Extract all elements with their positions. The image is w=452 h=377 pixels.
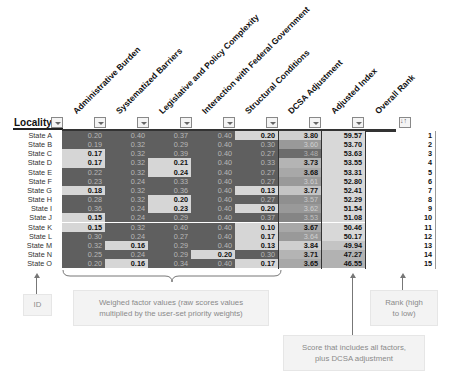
fed-cell: 0.40 (191, 259, 235, 268)
dcsa-cell: 3.64 (278, 232, 321, 241)
admin-cell: 0.25 (62, 250, 105, 259)
locality-cell: State F (10, 177, 52, 186)
index-cell: 51.08 (321, 213, 365, 222)
dcsa-cell: 3.84 (278, 241, 321, 250)
dcsa-cell: 3.77 (278, 186, 321, 195)
table-row: State C0.170.320.390.400.273.4853.633 (0, 149, 452, 158)
sys-cell: 0.24 (105, 213, 148, 222)
fed-cell: 0.40 (191, 232, 235, 241)
fed-cell: 0.40 (191, 186, 235, 195)
arrow-up-icon (34, 273, 40, 278)
filter-locality-button[interactable] (51, 117, 63, 128)
rank-cell: 11 (400, 223, 432, 232)
admin-cell: 0.20 (62, 259, 105, 268)
index-cell: 59.57 (321, 131, 365, 140)
admin-cell: 0.22 (62, 168, 105, 177)
table-row: State H0.280.320.200.400.273.5752.298 (0, 195, 452, 204)
leg-cell: 0.20 (148, 195, 191, 204)
admin-cell: 0.32 (62, 241, 105, 250)
sys-cell: 0.32 (105, 195, 148, 204)
leg-cell: 0.36 (148, 186, 191, 195)
table-row: State I0.360.240.230.400.203.6251.549 (0, 204, 452, 213)
locality-cell: State I (10, 204, 52, 213)
arrow-up-icon (350, 273, 356, 278)
leg-cell: 0.27 (148, 232, 191, 241)
admin-cell: 0.30 (62, 232, 105, 241)
index-cell: 50.46 (321, 223, 365, 232)
rank-cell: 12 (400, 232, 432, 241)
locality-cell: State K (10, 223, 52, 232)
locality-cell: State N (10, 250, 52, 259)
fed-cell: 0.40 (191, 177, 235, 186)
sys-cell: 0.24 (105, 177, 148, 186)
sys-cell: 0.16 (105, 259, 148, 268)
struct-cell: 0.33 (235, 158, 278, 167)
table-row: State B0.190.320.290.400.303.6053.702 (0, 140, 452, 149)
fed-cell: 0.40 (191, 131, 235, 140)
dcsa-cell: 3.71 (278, 250, 321, 259)
struct-cell: 0.27 (235, 177, 278, 186)
struct-cell: 0.30 (235, 140, 278, 149)
struct-cell: 0.37 (235, 213, 278, 222)
dcsa-cell: 3.48 (278, 149, 321, 158)
admin-cell: 0.17 (62, 158, 105, 167)
index-cell: 52.29 (321, 195, 365, 204)
filter-administrative-burden-button[interactable] (94, 117, 106, 128)
fed-cell: 0.40 (191, 223, 235, 232)
leg-cell: 0.39 (148, 149, 191, 158)
sys-cell: 0.32 (105, 149, 148, 158)
admin-cell: 0.19 (62, 140, 105, 149)
filter-adjusted-index-button[interactable] (352, 117, 364, 128)
fed-cell: 0.40 (191, 204, 235, 213)
struct-cell: 0.17 (235, 259, 278, 268)
rank-border (435, 131, 436, 269)
table-row: State A0.200.400.370.400.203.8059.571 (0, 131, 452, 140)
sys-cell: 0.24 (105, 250, 148, 259)
locality-cell: State A (10, 131, 52, 140)
table-row: State E0.220.320.240.400.273.6853.315 (0, 168, 452, 177)
filter-systematized-barriers-button[interactable] (137, 117, 149, 128)
fed-cell: 0.40 (191, 140, 235, 149)
rank-cell: 4 (400, 158, 432, 167)
index-cell: 53.55 (321, 158, 365, 167)
filter-interaction-federal-button[interactable] (223, 117, 235, 128)
fed-cell: 0.40 (191, 213, 235, 222)
fed-cell: 0.40 (191, 241, 235, 250)
struct-cell: 0.30 (235, 250, 278, 259)
table-row: State O0.200.160.340.400.173.6546.5515 (0, 259, 452, 268)
dcsa-cell: 3.65 (278, 259, 321, 268)
table-row: State J0.150.240.290.400.373.5351.0810 (0, 213, 452, 222)
sort-overall-rank-button[interactable] (399, 117, 411, 128)
table-row: State D0.170.320.210.400.333.7353.554 (0, 158, 452, 167)
rank-cell: 6 (400, 177, 432, 186)
sys-cell: 0.32 (105, 140, 148, 149)
leg-cell: 0.21 (148, 158, 191, 167)
filter-structural-conditions-button[interactable] (266, 117, 278, 128)
note-rank: Rank (high to low) (370, 290, 438, 326)
rank-cell: 14 (400, 250, 432, 259)
index-cell: 53.31 (321, 168, 365, 177)
table-row: State M0.320.160.290.400.133.8449.9413 (0, 241, 452, 250)
fed-cell: 0.20 (191, 250, 235, 259)
filter-dcsa-adjustment-button[interactable] (309, 117, 321, 128)
leg-cell: 0.33 (148, 177, 191, 186)
rank-cell: 7 (400, 186, 432, 195)
leg-cell: 0.29 (148, 213, 191, 222)
dcsa-cell: 3.73 (278, 158, 321, 167)
brace-icon (62, 269, 282, 283)
table-row: State F0.230.240.330.400.273.6152.806 (0, 177, 452, 186)
sys-cell: 0.32 (105, 186, 148, 195)
struct-cell: 0.27 (235, 168, 278, 177)
header-overall-rank: Overall Rank (373, 72, 417, 116)
dcsa-cell: 3.80 (278, 131, 321, 140)
struct-cell: 0.13 (235, 186, 278, 195)
table-row: State L0.300.240.270.400.173.6450.1712 (0, 232, 452, 241)
admin-cell: 0.36 (62, 204, 105, 213)
rank-cell: 9 (400, 204, 432, 213)
sys-cell: 0.32 (105, 168, 148, 177)
locality-cell: State D (10, 158, 52, 167)
admin-cell: 0.20 (62, 131, 105, 140)
admin-cell: 0.17 (62, 149, 105, 158)
struct-cell: 0.17 (235, 232, 278, 241)
filter-legislative-button[interactable] (180, 117, 192, 128)
